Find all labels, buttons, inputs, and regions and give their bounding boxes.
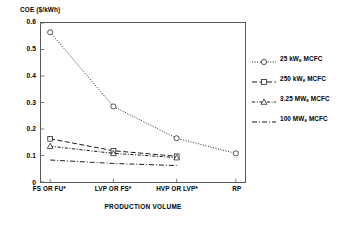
series-3 [50, 160, 176, 166]
series-0 [48, 30, 239, 156]
plot-area [40, 22, 246, 183]
legend-label: 100 MWe MCFC [280, 115, 328, 122]
data-point-marker-circle [111, 104, 116, 109]
legend-item: 100 MWe MCFC [252, 108, 347, 128]
x-tick-label: FS OR FU* [33, 185, 66, 192]
data-point-marker-circle [48, 30, 53, 35]
data-point-marker-square [48, 136, 53, 141]
x-axis-title: PRODUCTION VOLUME [40, 203, 246, 210]
series-line [50, 32, 236, 153]
y-tick-label: 0.1 [27, 152, 36, 159]
series-2 [47, 143, 179, 160]
data-point-marker-triangle [47, 143, 53, 148]
data-point-marker-circle [174, 136, 179, 141]
legend-label: 250 kWe MCFC [280, 75, 326, 82]
chart-legend: 25 kWe MCFC250 kWe MCFC3.25 MWe MCFC100 … [252, 48, 347, 128]
y-tick-label: 0.2 [27, 125, 36, 132]
legend-item: 250 kWe MCFC [252, 68, 347, 88]
series-line [50, 160, 176, 166]
y-tick-label: 0.6 [27, 18, 36, 25]
legend-label: 3.25 MWe MCFC [280, 95, 330, 102]
y-tick-label: 0.3 [27, 99, 36, 106]
legend-swatch [252, 113, 276, 123]
chart-figure: COE ($/kWh) 00.10.20.30.40.50.6 FS OR FU… [0, 0, 347, 227]
legend-item: 3.25 MWe MCFC [252, 88, 347, 108]
data-point-marker-square [262, 80, 267, 85]
x-axis-tick-labels: FS OR FU*LVP OR FS*HVP OR LVP*RP [0, 185, 347, 197]
y-tick-label: 0.5 [27, 45, 36, 52]
data-point-marker-circle [261, 59, 266, 64]
legend-label: 25 kWe MCFC [280, 55, 322, 62]
legend-swatch [252, 53, 276, 63]
x-tick-label: LVP OR FS* [95, 185, 132, 192]
legend-swatch [252, 93, 276, 103]
data-point-marker-circle [233, 151, 238, 156]
legend-item: 25 kWe MCFC [252, 48, 347, 68]
legend-swatch [252, 73, 276, 83]
x-tick-label: RP [232, 185, 241, 192]
plot-canvas [41, 23, 245, 182]
x-tick-label: HVP OR LVP* [156, 185, 198, 192]
y-tick-label: 0.4 [27, 72, 36, 79]
